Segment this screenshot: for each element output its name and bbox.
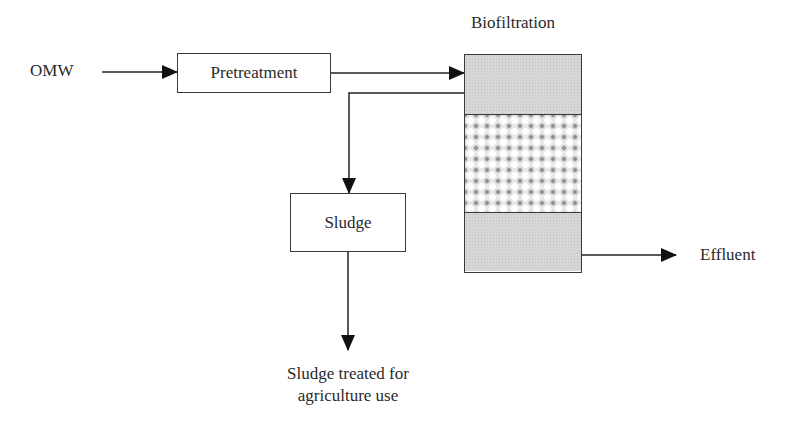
effluent-label: Effluent — [700, 245, 755, 265]
sludge-output-line2: agriculture use — [248, 385, 448, 407]
sludge-output-label: Sludge treated for agriculture use — [248, 363, 448, 407]
filter-media-section — [465, 115, 581, 213]
biofiltration-column — [464, 54, 582, 273]
sludge-box: Sludge — [290, 193, 406, 252]
pretreatment-box: Pretreatment — [177, 53, 331, 93]
arrow-biofiltration-to-sludge — [349, 93, 464, 193]
column-bottom-section — [465, 213, 581, 271]
biofiltration-label: Biofiltration — [471, 13, 555, 33]
sludge-output-line1: Sludge treated for — [248, 363, 448, 385]
omw-label: OMW — [30, 61, 73, 81]
sludge-label: Sludge — [324, 213, 371, 233]
pretreatment-label: Pretreatment — [211, 63, 298, 83]
column-top-section — [465, 55, 581, 115]
